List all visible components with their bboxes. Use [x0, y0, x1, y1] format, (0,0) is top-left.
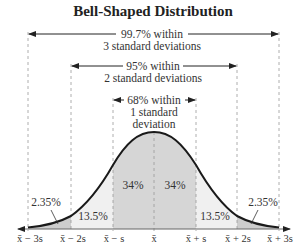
- svg-text:2.35%: 2.35%: [31, 196, 61, 208]
- region-fills: [28, 132, 279, 229]
- svg-text:deviation: deviation: [133, 118, 176, 130]
- svg-text:99.7% within: 99.7% within: [121, 28, 183, 40]
- svg-text:1 standard: 1 standard: [130, 106, 178, 118]
- svg-text:x̄ + 3s: x̄ + 3s: [267, 233, 293, 244]
- pointer-right: [251, 210, 258, 224]
- svg-text:34%: 34%: [164, 179, 186, 191]
- svg-text:3 standard deviations: 3 standard deviations: [103, 40, 201, 52]
- svg-text:13.5%: 13.5%: [78, 210, 108, 222]
- svg-text:x̄ − 3s: x̄ − 3s: [17, 233, 43, 244]
- svg-text:95% within: 95% within: [126, 60, 180, 72]
- svg-text:68% within: 68% within: [127, 94, 181, 106]
- svg-text:13.5%: 13.5%: [200, 210, 230, 222]
- annotation-3sd: 99.7% within 3 standard deviations: [29, 28, 278, 52]
- chart-canvas: 99.7% within 3 standard deviations 95% w…: [0, 0, 306, 246]
- svg-text:x̄: x̄: [151, 233, 157, 244]
- x-tick-labels: x̄ − 3s x̄ − 2s x̄ − s x̄ x̄ + s x̄ + 2s…: [17, 233, 293, 244]
- chart-title: Bell-Shaped Distribution: [0, 3, 306, 20]
- svg-text:x̄ + s: x̄ + s: [186, 233, 207, 244]
- svg-text:2.35%: 2.35%: [248, 196, 278, 208]
- annotation-1sd: 68% within 1 standard deviation: [114, 94, 195, 130]
- svg-text:x̄ − s: x̄ − s: [104, 233, 125, 244]
- annotation-2sd: 95% within 2 standard deviations: [72, 60, 236, 84]
- svg-text:x̄ − 2s: x̄ − 2s: [60, 233, 86, 244]
- bell-curve-chart: Bell-Shaped Distribution: [0, 0, 306, 246]
- svg-text:x̄ + 2s: x̄ + 2s: [225, 233, 251, 244]
- svg-text:34%: 34%: [122, 179, 144, 191]
- svg-text:2 standard deviations: 2 standard deviations: [104, 72, 202, 84]
